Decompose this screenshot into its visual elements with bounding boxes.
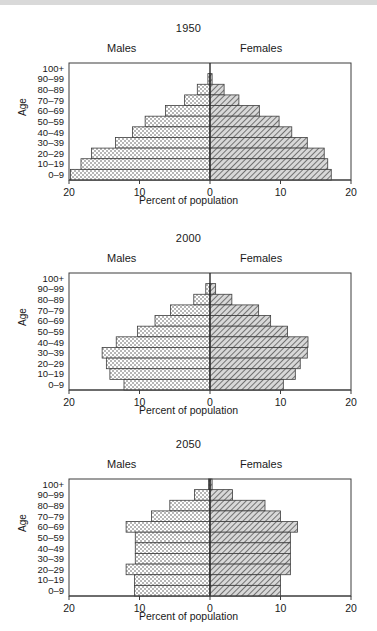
bar-male-7 — [102, 347, 210, 358]
svg-text:40–49: 40–49 — [38, 127, 64, 138]
svg-text:20: 20 — [63, 186, 75, 198]
population-pyramid-2050: 2050 Males Females Age Percent of popula… — [0, 424, 377, 631]
bar-female-7 — [210, 347, 307, 358]
bar-female-5 — [210, 532, 290, 543]
svg-text:30–39: 30–39 — [38, 347, 64, 358]
svg-text:10–19: 10–19 — [38, 368, 64, 379]
bar-male-9 — [110, 369, 210, 380]
bar-male-6 — [135, 543, 210, 554]
svg-text:20: 20 — [345, 396, 357, 408]
bar-female-9 — [210, 159, 328, 170]
svg-text:30–39: 30–39 — [38, 137, 64, 148]
svg-text:20: 20 — [345, 602, 357, 614]
svg-text:70–79: 70–79 — [38, 305, 64, 316]
bar-male-5 — [135, 532, 210, 543]
bar-male-9 — [81, 159, 210, 170]
plot-area: 100+90–9980–8970–7960–6950–5940–4930–392… — [0, 424, 377, 631]
svg-text:0: 0 — [207, 396, 213, 408]
svg-text:0–9: 0–9 — [48, 169, 64, 180]
population-pyramid-1950: 1950 Males Females Age Percent of popula… — [0, 8, 377, 218]
svg-text:80–89: 80–89 — [38, 294, 64, 305]
bar-female-6 — [210, 543, 290, 554]
bar-female-7 — [210, 137, 307, 148]
svg-text:60–69: 60–69 — [38, 315, 64, 326]
svg-text:20: 20 — [63, 602, 75, 614]
svg-text:90–99: 90–99 — [38, 73, 64, 84]
bar-female-4 — [210, 316, 271, 327]
svg-text:10: 10 — [134, 186, 146, 198]
plot-area: 100+90–9980–8970–7960–6950–5940–4930–392… — [0, 8, 377, 218]
bar-female-8 — [210, 358, 300, 369]
bar-male-2 — [170, 500, 210, 511]
svg-text:20–29: 20–29 — [38, 358, 64, 369]
bar-female-6 — [210, 127, 292, 138]
bar-female-4 — [210, 106, 259, 117]
bar-male-4 — [166, 106, 210, 117]
bar-female-3 — [210, 305, 259, 316]
bar-female-8 — [210, 564, 290, 575]
svg-text:60–69: 60–69 — [38, 521, 64, 532]
svg-text:0–9: 0–9 — [48, 585, 64, 596]
bar-female-10 — [210, 169, 331, 180]
bar-male-9 — [135, 575, 210, 586]
bar-male-10 — [124, 379, 210, 390]
bar-male-7 — [116, 137, 210, 148]
svg-text:100+: 100+ — [43, 479, 65, 490]
bar-female-7 — [210, 553, 290, 564]
bar-female-1 — [210, 490, 233, 501]
svg-text:20: 20 — [63, 396, 75, 408]
svg-text:50–59: 50–59 — [38, 532, 64, 543]
svg-text:0: 0 — [207, 186, 213, 198]
svg-text:10: 10 — [134, 396, 146, 408]
bar-male-8 — [126, 564, 210, 575]
svg-text:10: 10 — [134, 602, 146, 614]
svg-text:10: 10 — [275, 396, 287, 408]
bar-male-3 — [171, 305, 210, 316]
population-pyramid-2000: 2000 Males Females Age Percent of popula… — [0, 218, 377, 428]
bar-female-9 — [210, 575, 281, 586]
svg-text:10–19: 10–19 — [38, 158, 64, 169]
bar-female-5 — [210, 326, 288, 337]
svg-text:90–99: 90–99 — [38, 283, 64, 294]
svg-text:0: 0 — [207, 602, 213, 614]
bar-female-8 — [210, 148, 324, 159]
svg-text:50–59: 50–59 — [38, 116, 64, 127]
bar-male-8 — [92, 148, 210, 159]
bar-male-5 — [145, 116, 210, 127]
svg-text:20: 20 — [345, 186, 357, 198]
page-top-rule — [0, 0, 377, 5]
svg-text:50–59: 50–59 — [38, 326, 64, 337]
bar-male-10 — [135, 585, 210, 596]
bar-female-1 — [210, 284, 216, 295]
bar-female-10 — [210, 379, 283, 390]
bar-female-2 — [210, 500, 265, 511]
svg-text:60–69: 60–69 — [38, 105, 64, 116]
svg-text:40–49: 40–49 — [38, 543, 64, 554]
bar-female-10 — [210, 585, 281, 596]
svg-text:90–99: 90–99 — [38, 489, 64, 500]
bar-female-5 — [210, 116, 279, 127]
bar-female-6 — [210, 337, 308, 348]
bar-female-3 — [210, 511, 281, 522]
svg-text:100+: 100+ — [43, 273, 65, 284]
bar-female-9 — [210, 369, 295, 380]
bar-female-4 — [210, 522, 297, 533]
plot-area: 100+90–9980–8970–7960–6950–5940–4930–392… — [0, 218, 377, 428]
bar-male-8 — [106, 358, 210, 369]
bar-male-3 — [151, 511, 210, 522]
bar-female-2 — [210, 84, 224, 95]
bar-male-7 — [135, 553, 210, 564]
svg-text:70–79: 70–79 — [38, 511, 64, 522]
bar-male-2 — [197, 84, 210, 95]
svg-text:100+: 100+ — [43, 63, 65, 74]
bar-male-10 — [70, 169, 210, 180]
svg-text:10: 10 — [275, 602, 287, 614]
svg-text:20–29: 20–29 — [38, 148, 64, 159]
bar-male-3 — [185, 95, 210, 106]
bar-male-5 — [137, 326, 210, 337]
bar-male-6 — [116, 337, 210, 348]
bar-female-3 — [210, 95, 239, 106]
bar-male-2 — [194, 294, 210, 305]
svg-text:0–9: 0–9 — [48, 379, 64, 390]
bar-male-1 — [194, 490, 210, 501]
